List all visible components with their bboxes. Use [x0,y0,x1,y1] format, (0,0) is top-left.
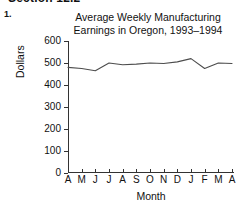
x-tick-label: A [65,175,72,185]
y-tick-label: 500 [44,58,61,68]
earnings-line-series [68,41,234,173]
plot-area: 0100200300400500600 AMJJASONDJFMA [68,41,234,173]
x-tick-label: A [229,175,236,185]
x-tick-label: S [133,175,140,185]
y-tick-label: 300 [44,102,61,112]
chart-title: Average Weekly Manufacturing Earnings in… [52,11,244,36]
x-tick-label: N [160,175,167,185]
section-header: Section 12.2 [8,0,80,5]
x-tick-label: J [107,175,112,185]
x-tick-label: J [93,175,98,185]
y-tick-label: 0 [55,168,61,178]
x-tick-label: M [77,175,85,185]
x-tick-label: O [146,175,154,185]
y-axis-title: Dollars [14,45,26,78]
item-number: 1. [4,9,12,19]
y-tick-label: 100 [44,146,61,156]
x-tick-label: D [174,175,181,185]
x-axis-title: Month [68,190,234,202]
x-tick-label: J [189,175,194,185]
chart-title-line-1: Average Weekly Manufacturing [52,11,244,24]
chart-title-line-2: Earnings in Oregon, 1993–1994 [52,24,244,37]
y-tick-label: 200 [44,124,61,134]
y-tick-label: 600 [44,36,61,46]
y-tick-label: 400 [44,80,61,90]
x-tick-label: F [202,175,208,185]
x-tick-label: A [119,175,126,185]
x-tick-label: M [214,175,222,185]
